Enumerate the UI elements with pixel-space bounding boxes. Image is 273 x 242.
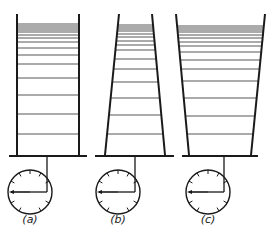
gauge-tick [224,201,227,203]
gauge-tick [39,173,41,176]
gauge-needle-arrow [187,190,192,194]
panel-label-b: (b) [110,213,126,226]
gauge-needle-arrow [9,190,14,194]
gauge-tick [189,201,192,203]
gauge-tick [189,181,192,183]
gauge-tick [127,208,129,211]
gauge-tick [197,208,199,211]
gauge-tick [197,173,199,176]
gauge-tick [217,208,219,211]
gauge-tick [11,181,14,183]
gauge-tick [99,201,102,203]
panel-label-c: (c) [201,213,216,226]
gauge-tick [134,201,137,203]
gauge-needle-arrow [97,190,102,194]
gauge-tick [107,173,109,176]
gauge-tick [46,201,49,203]
gauge-tick [19,208,21,211]
gauge-tick [107,208,109,211]
gauge-tick [217,173,219,176]
gauge-tick [99,181,102,183]
gauge-tick [127,173,129,176]
gauge-tick [11,201,14,203]
vessel-diagram [0,0,273,242]
gauge-tick [39,208,41,211]
gauge-tick [19,173,21,176]
panel-label-a: (a) [22,213,37,226]
